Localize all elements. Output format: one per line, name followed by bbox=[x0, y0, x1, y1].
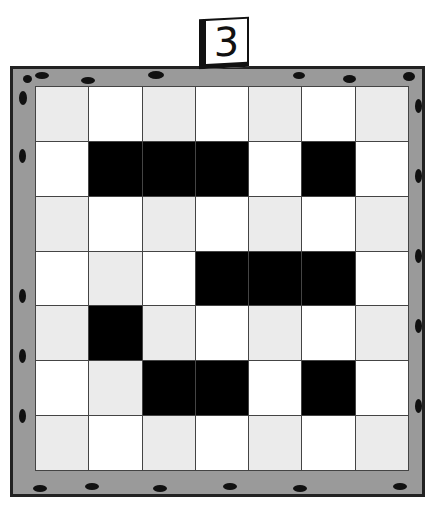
grid-cell[interactable] bbox=[249, 87, 301, 141]
grid-cell[interactable] bbox=[356, 306, 408, 360]
grid-cell[interactable] bbox=[302, 197, 354, 251]
grid-cell[interactable] bbox=[36, 361, 88, 415]
frame-spot-icon bbox=[293, 72, 305, 79]
grid-cell[interactable] bbox=[89, 87, 141, 141]
grid-cell[interactable] bbox=[196, 252, 248, 306]
frame-spot-icon bbox=[415, 249, 422, 263]
grid-cell[interactable] bbox=[356, 87, 408, 141]
grid-cell[interactable] bbox=[143, 197, 195, 251]
frame-spot-icon bbox=[415, 399, 422, 413]
grid-cell[interactable] bbox=[143, 306, 195, 360]
frame-spot-icon bbox=[153, 485, 167, 492]
grid-cell[interactable] bbox=[302, 416, 354, 470]
grid-cell[interactable] bbox=[249, 252, 301, 306]
puzzle-number: 3 bbox=[214, 18, 239, 65]
grid-cell[interactable] bbox=[89, 416, 141, 470]
grid-cell[interactable] bbox=[196, 87, 248, 141]
grid-cell[interactable] bbox=[356, 361, 408, 415]
grid-cell[interactable] bbox=[89, 197, 141, 251]
grid-cell[interactable] bbox=[302, 142, 354, 196]
grid-cell[interactable] bbox=[89, 361, 141, 415]
grid-cell[interactable] bbox=[356, 252, 408, 306]
frame-spot-icon bbox=[35, 72, 49, 79]
grid-cell[interactable] bbox=[196, 142, 248, 196]
grid-cell[interactable] bbox=[196, 416, 248, 470]
frame-spot-icon bbox=[223, 483, 237, 490]
frame-spot-icon bbox=[415, 169, 422, 183]
grid-cell[interactable] bbox=[196, 197, 248, 251]
grid-cell[interactable] bbox=[356, 142, 408, 196]
grid-cell[interactable] bbox=[36, 197, 88, 251]
frame-spot-icon bbox=[19, 289, 26, 303]
grid-cell[interactable] bbox=[89, 306, 141, 360]
grid-cell[interactable] bbox=[356, 416, 408, 470]
puzzle-number-badge: 3 bbox=[199, 17, 249, 70]
grid-cell[interactable] bbox=[249, 416, 301, 470]
grid-cell[interactable] bbox=[36, 142, 88, 196]
grid-cell[interactable] bbox=[36, 252, 88, 306]
puzzle-grid bbox=[35, 86, 409, 471]
frame-spot-icon bbox=[415, 319, 422, 333]
grid-cell[interactable] bbox=[249, 142, 301, 196]
grid-cell[interactable] bbox=[143, 142, 195, 196]
frame-spot-icon bbox=[415, 99, 422, 113]
grid-cell[interactable] bbox=[89, 142, 141, 196]
frame-spot-icon bbox=[19, 91, 27, 105]
grid-cell[interactable] bbox=[302, 87, 354, 141]
frame-spot-icon bbox=[403, 72, 415, 81]
grid-cell[interactable] bbox=[196, 306, 248, 360]
grid-cell[interactable] bbox=[36, 87, 88, 141]
grid-cell[interactable] bbox=[36, 416, 88, 470]
grid-cell[interactable] bbox=[143, 416, 195, 470]
grid-cell[interactable] bbox=[36, 306, 88, 360]
frame-spot-icon bbox=[33, 485, 47, 492]
grid-cell[interactable] bbox=[89, 252, 141, 306]
grid-cell[interactable] bbox=[302, 306, 354, 360]
grid-cell[interactable] bbox=[249, 197, 301, 251]
frame-spot-icon bbox=[19, 149, 26, 163]
grid-cell[interactable] bbox=[249, 306, 301, 360]
grid-cell[interactable] bbox=[356, 197, 408, 251]
grid-cell[interactable] bbox=[143, 361, 195, 415]
grid-cell[interactable] bbox=[143, 87, 195, 141]
grid-cell[interactable] bbox=[302, 361, 354, 415]
frame-spot-icon bbox=[19, 349, 26, 363]
grid-cell[interactable] bbox=[143, 252, 195, 306]
frame-spot-icon bbox=[293, 485, 307, 492]
frame-spot-icon bbox=[148, 71, 164, 79]
frame-spot-icon bbox=[393, 483, 407, 490]
frame-spot-icon bbox=[19, 409, 26, 423]
grid-cell[interactable] bbox=[302, 252, 354, 306]
frame-spot-icon bbox=[85, 483, 99, 490]
grid-cell[interactable] bbox=[196, 361, 248, 415]
frame-spot-icon bbox=[23, 75, 32, 83]
grid-cell[interactable] bbox=[249, 361, 301, 415]
frame-spot-icon bbox=[343, 75, 356, 83]
frame-spot-icon bbox=[81, 77, 95, 84]
